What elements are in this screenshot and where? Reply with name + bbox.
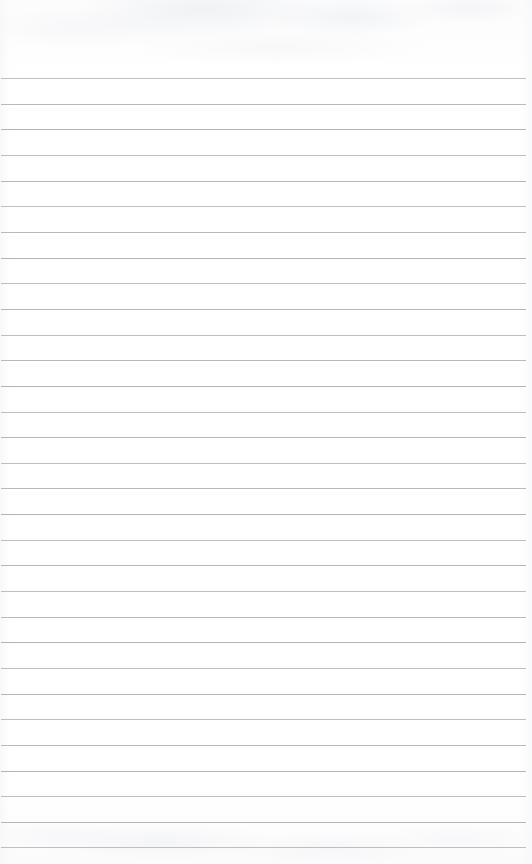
notepad-page: [0, 0, 532, 864]
writing-area[interactable]: [1, 78, 526, 847]
blank-footer-area: [0, 848, 532, 864]
